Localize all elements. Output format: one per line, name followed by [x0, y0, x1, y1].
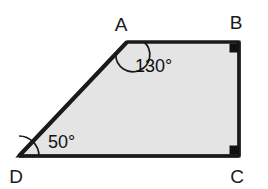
right-angle-marker-C: [230, 146, 239, 155]
vertex-label-D: D: [9, 166, 23, 187]
angle-label-130: 130°: [135, 56, 172, 76]
vertex-label-B: B: [230, 12, 243, 33]
angle-label-50: 50°: [48, 132, 75, 152]
geometry-figure: A B C D 130° 50°: [0, 0, 268, 189]
vertex-label-A: A: [115, 14, 128, 35]
trapezoid-diagram-svg: A B C D 130° 50°: [0, 0, 268, 189]
right-angle-marker-B: [230, 44, 239, 53]
vertex-label-C: C: [230, 166, 244, 187]
